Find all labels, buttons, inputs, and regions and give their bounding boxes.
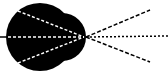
outer-rays bbox=[86, 10, 168, 62]
diagram-canvas bbox=[0, 0, 168, 75]
optics-diagram bbox=[0, 0, 168, 75]
outer-ray-middle bbox=[86, 36, 168, 37]
outer-ray-bottom bbox=[86, 37, 150, 62]
outer-ray-top bbox=[86, 10, 150, 37]
